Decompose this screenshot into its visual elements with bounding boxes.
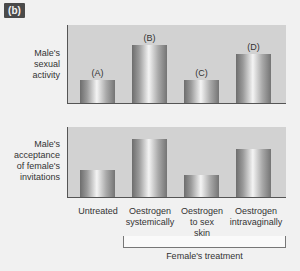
x-axis-label: Female's treatment	[123, 251, 286, 261]
bar	[132, 139, 167, 197]
top-chart-panel: (A)(B)(C)(D)	[67, 25, 286, 104]
x-tick-label: Oestrogen intravaginally	[226, 206, 286, 228]
top-y-axis-label: Male's sexual activity	[32, 48, 60, 81]
x-tick-label: Untreated	[72, 206, 124, 217]
bar	[236, 54, 271, 103]
bar-label: (C)	[184, 68, 219, 78]
bar	[184, 175, 219, 197]
bar-label: (B)	[132, 33, 167, 43]
bar-label: (A)	[80, 68, 115, 78]
bottom-chart-panel	[67, 127, 286, 198]
bar	[132, 45, 167, 103]
bottom-y-axis-label: Male's acceptance of female's invitation…	[14, 139, 60, 183]
bar	[80, 80, 115, 103]
panel-tag: (b)	[4, 3, 25, 18]
bar	[184, 80, 219, 103]
bar	[80, 170, 115, 197]
treatment-bracket	[123, 236, 286, 248]
x-tick-label: Oestrogen systemically	[124, 206, 176, 228]
bar-label: (D)	[236, 42, 271, 52]
bar	[236, 149, 271, 197]
x-tick-label: Oestrogen to sex skin	[176, 206, 228, 239]
